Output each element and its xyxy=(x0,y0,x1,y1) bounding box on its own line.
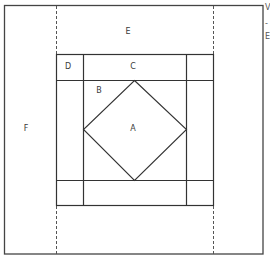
quilt-block-diagram: A B C D E F V - E xyxy=(0,0,270,257)
cropped-text-fragment: E xyxy=(265,33,270,41)
label-c: C xyxy=(130,63,136,71)
label-a: A xyxy=(130,125,135,133)
cropped-text-fragment: - xyxy=(265,20,268,28)
label-b: B xyxy=(96,87,102,95)
label-d: D xyxy=(65,63,71,71)
label-f: F xyxy=(24,125,29,133)
cropped-text-fragment: V xyxy=(265,4,270,12)
label-e: E xyxy=(125,28,130,36)
